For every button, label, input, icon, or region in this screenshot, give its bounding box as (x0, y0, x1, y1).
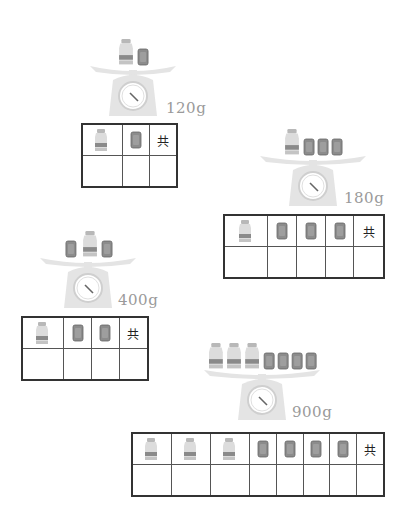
box-icon (284, 438, 296, 460)
grid-header-cell (325, 215, 354, 247)
scale-items (209, 343, 316, 369)
weight-label-3: 400g (118, 291, 158, 309)
grid-answer-cell[interactable] (250, 465, 277, 497)
bottle-icon (119, 39, 133, 64)
answer-grid-4: 共 (131, 432, 385, 497)
box-icon (285, 441, 295, 457)
box-icon (306, 223, 316, 239)
box-icon (306, 353, 316, 369)
box-icon (258, 441, 268, 457)
bottle-icon (36, 322, 48, 344)
box-icon (138, 49, 148, 65)
grid-header-cell (82, 124, 122, 156)
grid-answer-cell[interactable] (132, 465, 172, 497)
grid-header-row: 共 (82, 124, 177, 156)
grid-answer-cell[interactable] (356, 465, 384, 497)
grid-header-row: 共 (132, 433, 384, 465)
grid-header-cell (267, 215, 296, 247)
box-icon (72, 322, 84, 344)
box-icon (73, 325, 83, 341)
bottle-icon (184, 438, 196, 460)
bottle-icon (209, 343, 223, 368)
grid-answer-cell[interactable] (276, 465, 303, 497)
bottle-icon (223, 438, 235, 460)
grid-header-cell (224, 215, 267, 247)
grid-answer-cell[interactable] (119, 349, 148, 381)
grid-header-cell (22, 317, 64, 349)
bottle-icon (239, 220, 251, 242)
answer-grid-1: 共 (81, 123, 178, 188)
weight-label-2: 180g (344, 189, 384, 207)
grid-header-cell (64, 317, 92, 349)
grid-answer-cell[interactable] (224, 247, 267, 279)
scale-1 (88, 36, 178, 120)
total-label: 共 (127, 328, 139, 342)
box-icon (334, 220, 346, 242)
box-icon (277, 223, 287, 239)
grid-header-cell (250, 433, 277, 465)
grid-answer-cell[interactable] (330, 465, 357, 497)
grid-answer-row (132, 465, 384, 497)
grid-answer-cell[interactable] (267, 247, 296, 279)
weight-label-1: 120g (166, 99, 206, 117)
grid-answer-cell[interactable] (354, 247, 384, 279)
box-icon (318, 139, 328, 155)
grid-answer-cell[interactable] (303, 465, 330, 497)
box-icon (310, 438, 322, 460)
grid-answer-cell[interactable] (211, 465, 250, 497)
box-icon (311, 441, 321, 457)
grid-header-cell: 共 (149, 124, 177, 156)
grid-header-cell (132, 433, 172, 465)
box-icon (335, 223, 345, 239)
box-icon (292, 353, 302, 369)
scale-items (66, 231, 112, 257)
grid-header-cell: 共 (354, 215, 384, 247)
grid-answer-cell[interactable] (296, 247, 325, 279)
box-icon (305, 220, 317, 242)
bottle-icon (34, 322, 52, 344)
grid-header-row: 共 (22, 317, 148, 349)
grid-answer-cell[interactable] (325, 247, 354, 279)
box-icon (130, 129, 142, 151)
grid-header-row: 共 (224, 215, 384, 247)
grid-answer-row (82, 156, 177, 188)
total-label: 共 (363, 226, 375, 240)
scale-items (285, 129, 342, 155)
grid-header-cell (276, 433, 303, 465)
box-icon (66, 241, 76, 257)
grid-header-cell (211, 433, 250, 465)
box-icon (332, 139, 342, 155)
grid-answer-cell[interactable] (149, 156, 177, 188)
grid-answer-cell[interactable] (91, 349, 119, 381)
grid-header-cell (172, 433, 211, 465)
grid-header-cell (303, 433, 330, 465)
weight-label-4: 900g (292, 403, 332, 421)
grid-header-cell (91, 317, 119, 349)
grid-answer-cell[interactable] (122, 156, 149, 188)
box-icon (99, 322, 111, 344)
bottle-icon (245, 343, 259, 368)
bottle-icon (221, 438, 239, 460)
grid-answer-cell[interactable] (64, 349, 92, 381)
grid-answer-row (224, 247, 384, 279)
grid-answer-cell[interactable] (82, 156, 122, 188)
box-icon (276, 220, 288, 242)
box-icon (304, 139, 314, 155)
bottle-icon (182, 438, 200, 460)
grid-answer-cell[interactable] (22, 349, 64, 381)
grid-header-cell (296, 215, 325, 247)
grid-header-cell: 共 (356, 433, 384, 465)
box-icon (131, 132, 141, 148)
grid-header-cell: 共 (119, 317, 148, 349)
grid-header-cell (122, 124, 149, 156)
bottle-icon (95, 129, 107, 151)
box-icon (278, 353, 288, 369)
bottle-icon (227, 343, 241, 368)
bottle-icon (145, 438, 157, 460)
scale-items (119, 39, 148, 65)
bottle-icon (93, 129, 111, 151)
grid-answer-cell[interactable] (172, 465, 211, 497)
answer-grid-3: 共 (21, 316, 149, 381)
bottle-icon (285, 129, 299, 154)
box-icon (257, 438, 269, 460)
